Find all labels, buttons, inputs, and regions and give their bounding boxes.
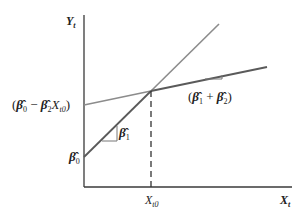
- x-tick-threshold: Xt0: [144, 193, 159, 209]
- segment-1-line: [84, 91, 151, 157]
- y-tick-intercept: β̂0: [68, 149, 80, 166]
- slope-label-beta1: β̂1: [118, 125, 130, 142]
- slope-triangle-1: [102, 126, 117, 141]
- y-tick-intercept-shift: (β̂0 − β̂2Xt0): [12, 97, 70, 114]
- regression-diagram: Yt Xt β̂1 (β̂1 + β̂2) (β̂0 − β̂2Xt0) β̂0…: [0, 0, 305, 218]
- steep-line-extension: [151, 24, 219, 91]
- flat-line-extension: [84, 91, 151, 105]
- x-axis-label: Xt: [279, 193, 291, 209]
- y-axis-label: Yt: [66, 14, 76, 30]
- slope-label-beta1-plus-beta2: (β̂1 + β̂2): [188, 89, 232, 106]
